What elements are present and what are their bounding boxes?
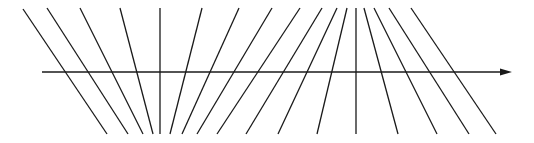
ray-line-17 [411,8,496,134]
ray-line-10 [246,8,322,134]
ray-line-16 [389,8,469,134]
ray-line-4 [120,8,153,134]
line-family-diagram [0,0,534,143]
ray-lines-group [23,8,496,134]
ray-line-14 [364,8,398,134]
ray-line-6 [170,8,202,134]
arrow-right-icon [500,69,512,76]
ray-line-2 [47,8,128,134]
ray-line-8 [197,8,272,134]
ray-line-15 [374,8,437,134]
ray-line-12 [317,8,347,134]
ray-line-7 [182,8,239,134]
ray-line-3 [80,8,143,134]
